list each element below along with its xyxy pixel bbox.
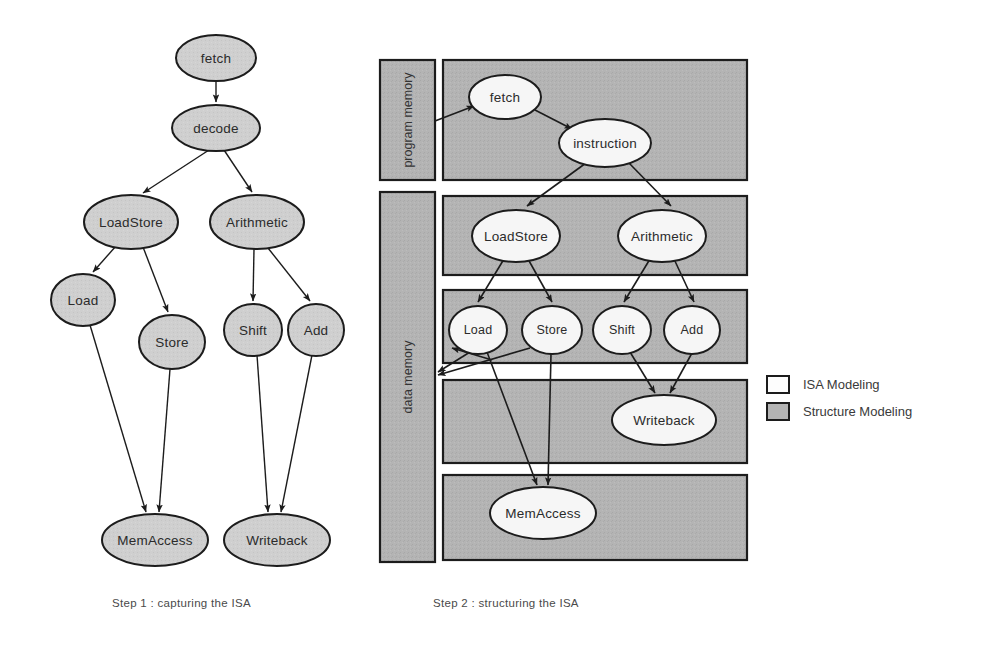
node-loadstore-label: LoadStore: [99, 215, 163, 230]
legend-item-isa-modeling[interactable]: ISA Modeling: [766, 371, 912, 398]
node-loadstore[interactable]: LoadStore: [84, 195, 178, 249]
node-add[interactable]: Add: [288, 304, 344, 356]
node-store[interactable]: Store: [522, 306, 582, 354]
block-program-memory-label: program memory: [401, 72, 415, 168]
edge-store-memaccess: [159, 369, 170, 512]
node-arithmetic-label: Arithmetic: [631, 229, 693, 244]
node-arithmetic[interactable]: Arithmetic: [618, 210, 706, 262]
node-loadstore-label: LoadStore: [484, 229, 548, 244]
legend: ISA Modeling Structure Modeling: [766, 371, 912, 425]
node-loadstore[interactable]: LoadStore: [472, 210, 560, 262]
node-arithmetic-label: Arithmetic: [226, 215, 288, 230]
node-fetch-label: fetch: [490, 90, 520, 105]
edge-decode-loadstore: [143, 150, 209, 193]
edge-arithmetic-shift: [253, 249, 254, 301]
node-memaccess[interactable]: MemAccess: [490, 487, 596, 539]
edge-loadstore-load: [93, 246, 116, 272]
node-fetch[interactable]: fetch: [176, 35, 256, 81]
diagram-svg: fetch decode LoadStore Arithmetic Load: [0, 0, 989, 655]
node-load[interactable]: Load: [449, 306, 507, 354]
step1-diagram: fetch decode LoadStore Arithmetic Load: [51, 35, 344, 566]
node-writeback-label: Writeback: [633, 413, 695, 428]
legend-label-isa-modeling: ISA Modeling: [803, 377, 880, 392]
edge-add-writeback: [281, 355, 312, 512]
node-store-label: Store: [155, 335, 188, 350]
node-load-label: Load: [464, 323, 493, 337]
legend-label-structure-modeling: Structure Modeling: [803, 404, 912, 419]
node-add-label: Add: [304, 323, 329, 338]
step2-diagram: program memory data memory: [380, 60, 747, 562]
legend-swatch-structure-modeling: [766, 402, 790, 421]
legend-item-structure-modeling[interactable]: Structure Modeling: [766, 398, 912, 425]
block-data-memory-label: data memory: [401, 340, 415, 414]
node-shift[interactable]: Shift: [593, 306, 651, 354]
node-memaccess-label: MemAccess: [117, 533, 192, 548]
node-decode[interactable]: decode: [172, 105, 260, 151]
node-arithmetic[interactable]: Arithmetic: [210, 195, 304, 249]
legend-swatch-isa-modeling: [766, 375, 790, 394]
node-instruction[interactable]: instruction: [559, 119, 651, 167]
node-add[interactable]: Add: [664, 306, 720, 354]
node-memaccess-label: MemAccess: [505, 506, 580, 521]
node-memaccess[interactable]: MemAccess: [102, 514, 208, 566]
block-program-memory[interactable]: program memory: [380, 60, 435, 180]
node-decode-label: decode: [193, 121, 239, 136]
node-fetch-label: fetch: [201, 51, 231, 66]
edge-shift-writeback: [257, 355, 268, 512]
block-data-memory[interactable]: data memory: [380, 192, 435, 562]
step2-caption: Step 2 : structuring the ISA: [433, 597, 579, 609]
edge-decode-arithmetic: [224, 150, 252, 192]
node-shift-label: Shift: [609, 323, 635, 337]
step1-nodes: fetch decode LoadStore Arithmetic Load: [51, 35, 344, 566]
node-fetch[interactable]: fetch: [469, 75, 541, 119]
edge-loadstore-store: [143, 247, 168, 312]
node-instruction-label: instruction: [573, 136, 637, 151]
node-writeback-label: Writeback: [246, 533, 308, 548]
edge-load-memaccess: [90, 325, 146, 512]
node-writeback[interactable]: Writeback: [612, 395, 716, 445]
node-store[interactable]: Store: [139, 315, 205, 369]
step1-caption: Step 1 : capturing the ISA: [112, 597, 251, 609]
node-store-label: Store: [537, 323, 568, 337]
node-writeback[interactable]: Writeback: [224, 514, 330, 566]
node-shift-label: Shift: [239, 323, 267, 338]
node-shift[interactable]: Shift: [224, 304, 282, 356]
edge-arithmetic-add: [268, 248, 310, 301]
node-add-label: Add: [681, 323, 704, 337]
figure-canvas: fetch decode LoadStore Arithmetic Load: [0, 0, 989, 655]
node-load[interactable]: Load: [51, 274, 115, 326]
node-load-label: Load: [68, 293, 99, 308]
